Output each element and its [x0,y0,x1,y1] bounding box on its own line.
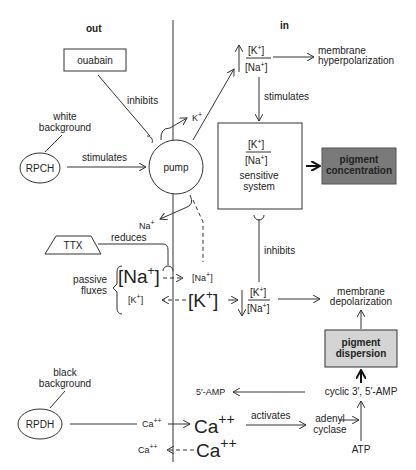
pigment-concentration-line1: pigment [340,154,380,165]
adenyl-cyclase-line2: cyclase [313,424,347,435]
ca-big-in-top: Ca++ [194,411,235,437]
ca-out-top: Ca++ [142,417,162,429]
region-in-label: in [280,20,289,31]
inhibit-cap-icon-na [163,266,173,271]
inhibits-top-label: inhibits [127,95,158,106]
ratio-top: [K+] [Na+] [239,44,271,73]
ca-big-in-bottom: Ca++ [196,435,237,461]
adenyl-cyclase-line1: adenyl [315,413,344,424]
pump-node: pump [149,140,203,194]
k-efflux-arrow [161,118,187,140]
inhibits-mid-label: inhibits [264,245,295,256]
rpdh-label: RPDH [26,419,54,430]
ttx-reduces-edge [98,244,168,265]
pump-label: pump [163,162,188,173]
ratio-top-na: [Na+] [245,61,268,73]
ouabain-label: ouabain [77,55,113,66]
white-background-line1: white [52,111,77,122]
ratio-bottom: [K+] [Na+] [242,286,270,316]
pigment-dispersion-line2: dispersion [336,348,387,359]
activates-label: activates [251,410,290,421]
white-background-line2: background [39,122,91,133]
pigment-concentration-line2: concentration [326,165,392,176]
cyclic-amp-label: cyclic 3′, 5′-AMP [325,386,398,397]
ttx-node: TTX [45,235,101,254]
five-amp-label: 5′-AMP [196,387,225,397]
ratio-bottom-na: [Na+] [247,302,270,314]
passive-fluxes-line2: fluxes [81,285,107,296]
na-efflux-arrow [160,195,192,219]
stimulates-rpch-label: stimulates [82,152,127,163]
ttx-label: TTX [64,240,83,251]
k-out-small: [K+] [128,293,143,305]
depolarization-line2: depolarization [330,296,392,307]
sensitive-system-line1: sensitive [240,170,279,181]
sensitive-system-node: [K+] [Na+] sensitive system [218,123,302,209]
diagram-canvas: out in ouabain inhibits white background… [0,0,416,470]
ss-ratio-na: [Na+] [245,154,268,166]
ratio-top-k: [K+] [248,44,265,56]
na-out-label: Na+ [139,219,155,231]
k-big-in: [K+] [188,288,218,311]
na-in-small: [Na+] [192,271,213,283]
ca-out-bottom: Ca++ [138,443,158,455]
k-out-label: K+ [192,111,202,123]
pigment-dispersion-line1: pigment [342,337,382,348]
region-out-label: out [86,23,102,34]
sensitive-system-line2: system [243,181,275,192]
ss-ratio-k: [K+] [248,138,265,150]
black-background-line1: black [53,367,77,378]
rpch-node: RPCH [20,153,60,183]
na-big-out: [Na+] [118,264,160,287]
pigment-concentration-node: pigment concentration [322,148,396,184]
rpdh-node: RPDH [18,409,62,439]
rpch-label: RPCH [26,163,54,174]
ratio-bottom-k: [K+] [250,286,267,298]
passive-fluxes-line1: passive [73,274,107,285]
stimulates-ratio-label: stimulates [264,91,309,102]
white-background-connector [45,135,62,152]
ouabain-node: ouabain [64,49,126,71]
pigment-dispersion-node: pigment dispersion [325,330,397,367]
inhibit-cap-icon [147,136,152,143]
black-background-connector [50,391,65,408]
atp-label: ATP [352,444,371,455]
pump-na-dashed-edge [193,200,203,262]
reduces-label: reduces [111,232,147,243]
hyperpolarization-line2: hyperpolarization [318,55,394,66]
black-background-line2: background [39,378,91,389]
